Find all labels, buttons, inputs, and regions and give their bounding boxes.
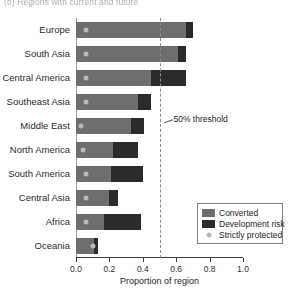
category-label: Central America — [2, 70, 70, 86]
legend-item: Development risk — [202, 218, 278, 229]
legend-label: Strictly protected — [219, 230, 282, 240]
bar-segment-converted — [76, 166, 111, 182]
legend-swatch — [202, 209, 215, 217]
x-axis-label: Proportion of region — [76, 276, 243, 286]
x-tick-label: 1.0 — [237, 264, 249, 274]
chart-figure: (b) Regions with current and future 0.00… — [0, 0, 288, 301]
bar-segment-development-risk — [151, 70, 186, 86]
category-label: North America — [10, 142, 70, 158]
bar-segment-converted — [76, 46, 178, 62]
x-tick — [76, 258, 77, 262]
chart-legend: ConvertedDevelopment riskStrictly protec… — [197, 203, 283, 244]
x-tick-label: 0.0 — [70, 264, 82, 274]
category-label: Southeast Asia — [7, 94, 70, 110]
bar-segment-development-risk — [113, 142, 138, 158]
strictly-protected-marker — [84, 172, 89, 177]
bar-segment-converted — [76, 118, 131, 134]
legend-item: Strictly protected — [202, 229, 278, 240]
strictly-protected-marker — [84, 220, 89, 225]
strictly-protected-marker — [84, 196, 89, 201]
bar-segment-development-risk — [131, 118, 144, 134]
bar-segment-development-risk — [111, 166, 143, 182]
category-label: South Asia — [25, 46, 70, 62]
legend-dot-marker — [202, 231, 215, 239]
threshold-annotation-label: 50% threshold — [174, 114, 228, 124]
bar-segment-development-risk — [138, 94, 151, 110]
category-label: Oceania — [35, 238, 70, 254]
x-tick — [143, 258, 144, 262]
bar-segment-converted — [76, 214, 104, 230]
legend-label: Converted — [219, 208, 258, 218]
strictly-protected-marker — [84, 28, 89, 33]
strictly-protected-marker — [84, 52, 89, 57]
x-tick — [109, 258, 110, 262]
category-label: Africa — [46, 214, 70, 230]
bar-segment-development-risk — [178, 46, 186, 62]
x-tick-label: 0.2 — [103, 264, 115, 274]
bar-segment-converted — [76, 190, 109, 206]
category-label: Central Asia — [19, 190, 70, 206]
strictly-protected-marker — [84, 76, 89, 81]
x-tick — [243, 258, 244, 262]
bar-segment-converted — [76, 22, 186, 38]
x-tick-label: 0.4 — [137, 264, 149, 274]
strictly-protected-marker — [79, 124, 84, 129]
bar-segment-development-risk — [104, 214, 141, 230]
legend-swatch — [202, 220, 215, 228]
legend-item: Converted — [202, 207, 278, 218]
category-label: South America — [8, 166, 70, 182]
bar-segment-development-risk — [109, 190, 117, 206]
threshold-line — [160, 18, 161, 258]
legend-label: Development risk — [219, 219, 285, 229]
strictly-protected-marker — [90, 244, 95, 249]
bar-segment-development-risk — [186, 22, 193, 38]
legend-dot-icon — [206, 232, 211, 237]
category-label: Middle East — [20, 118, 70, 134]
x-tick — [210, 258, 211, 262]
category-label: Europe — [39, 22, 70, 38]
x-tick-label: 0.8 — [204, 264, 216, 274]
strictly-protected-marker — [80, 148, 85, 153]
x-tick — [176, 258, 177, 262]
panel-title: (b) Regions with current and future — [4, 0, 138, 7]
x-tick-label: 0.6 — [170, 264, 182, 274]
strictly-protected-marker — [84, 100, 89, 105]
